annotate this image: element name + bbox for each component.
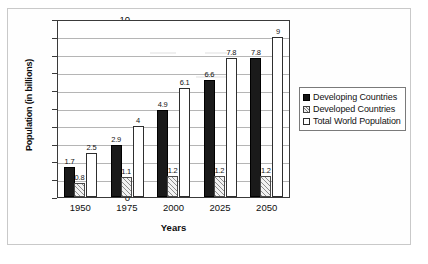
bar-value-label: 6.6	[198, 71, 221, 79]
y-axis-tick-mark	[52, 198, 57, 199]
bar-total	[226, 58, 237, 197]
bar-value-label: 1.1	[115, 168, 138, 176]
legend-item: Developing Countries	[303, 91, 401, 103]
bar-developed	[74, 183, 85, 197]
bar-value-label: 2.5	[80, 144, 103, 152]
x-axis-tick-label: 1950	[56, 202, 104, 213]
bar-value-label: 6.1	[173, 79, 196, 87]
bar-value-label: 4.9	[151, 101, 174, 109]
bar-developed	[214, 176, 225, 197]
population-bar-chart: Population (in billions) 012345678910 1.…	[0, 0, 428, 264]
bar-value-label: 7.8	[220, 49, 243, 57]
legend-swatch-developing	[303, 94, 310, 101]
x-axis-tick-label: 1975	[103, 202, 151, 213]
legend-item: Total World Population	[303, 115, 401, 127]
bar-value-label: 1.2	[254, 167, 277, 175]
y-axis-title: Population (in billions)	[24, 35, 34, 175]
bar-value-label: 1.2	[161, 167, 184, 175]
legend-swatch-developed	[303, 106, 310, 113]
bar-value-label: 7.8	[244, 49, 267, 57]
bar-value-label: 0.8	[68, 174, 91, 182]
legend-label: Developed Countries	[313, 104, 395, 114]
legend-swatch-total	[303, 118, 310, 125]
bar-developed	[260, 176, 271, 197]
bar-developed	[167, 176, 178, 197]
bar-total	[133, 126, 144, 197]
legend-label: Developing Countries	[313, 92, 397, 102]
x-axis-tick-label: 2025	[196, 202, 244, 213]
bar-value-label: 2.9	[105, 136, 128, 144]
bar-developed	[121, 177, 132, 197]
x-axis-tick-label: 2000	[150, 202, 198, 213]
bar-value-label: 9	[266, 28, 289, 36]
bar-value-label: 1.7	[58, 158, 81, 166]
bar-total	[179, 88, 190, 197]
chart-legend: Developing CountriesDeveloped CountriesT…	[299, 87, 406, 131]
legend-item: Developed Countries	[303, 103, 401, 115]
x-axis-title: Years	[57, 222, 290, 233]
bar-value-label: 1.2	[208, 167, 231, 175]
legend-label: Total World Population	[313, 116, 401, 126]
bar-value-label: 4	[127, 117, 150, 125]
gridline	[58, 38, 289, 39]
plot-area: 1.72.50.82.941.14.96.11.26.67.81.27.891.…	[57, 20, 290, 198]
x-axis-tick-label: 2050	[243, 202, 291, 213]
